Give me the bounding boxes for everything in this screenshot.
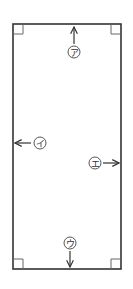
label-u: ウ (64, 237, 76, 249)
label-a-text: ア (70, 48, 79, 58)
corner-mark-bottom-left (13, 259, 23, 269)
corner-mark-bottom-right (111, 259, 121, 269)
label-a: ア (68, 46, 80, 58)
diagram-stage: ア イ エ ウ (0, 0, 133, 289)
rectangle-outline (13, 24, 121, 269)
label-i: イ (34, 137, 46, 149)
label-i-text: イ (36, 139, 45, 149)
label-e-text: エ (91, 159, 100, 169)
label-u-text: ウ (66, 239, 75, 249)
rectangle-diagram: ア イ エ ウ (0, 0, 133, 289)
corner-mark-top-left (13, 24, 23, 34)
corner-mark-top-right (111, 24, 121, 34)
label-e: エ (89, 157, 101, 169)
